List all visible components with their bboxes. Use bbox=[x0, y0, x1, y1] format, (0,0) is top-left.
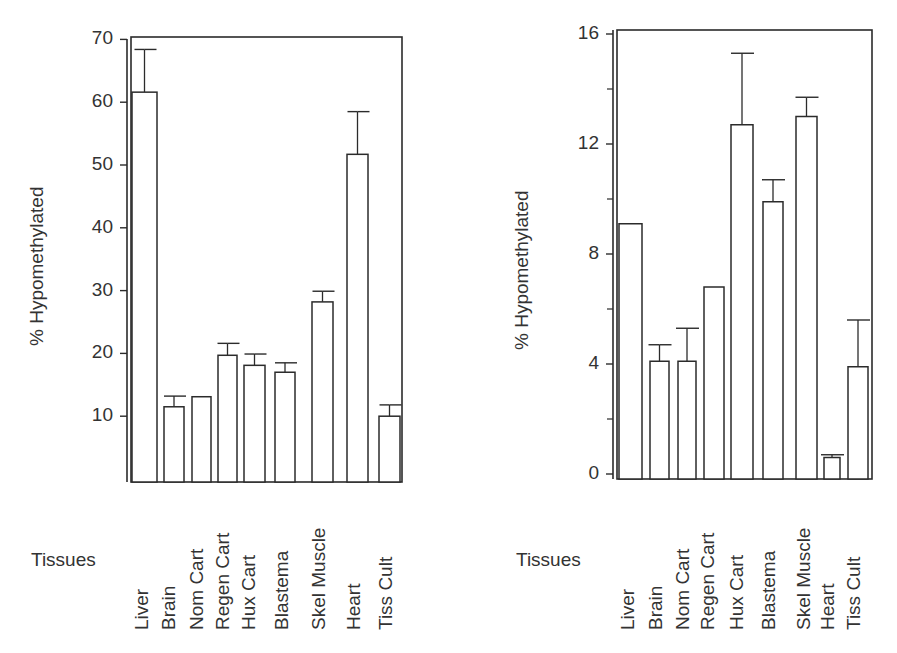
x-category-label: Liver bbox=[618, 589, 637, 630]
bar-tiss-cult bbox=[848, 367, 868, 479]
bar-nom-cart bbox=[678, 361, 696, 479]
bar-blastema bbox=[763, 202, 783, 479]
x-category-label: Heart bbox=[818, 584, 837, 630]
x-category-label: Blastema bbox=[759, 551, 778, 630]
right-x-axis-title: Tissues bbox=[516, 549, 581, 571]
y-tick-label: 12 bbox=[559, 132, 599, 154]
right-y-axis-label: % Hypomethylated bbox=[511, 191, 533, 350]
bar-skel-muscle bbox=[796, 117, 817, 480]
bar-brain bbox=[650, 361, 669, 479]
bar-liver bbox=[619, 224, 642, 479]
bar-hux-cart bbox=[731, 125, 753, 479]
x-category-label: Skel Muscle bbox=[794, 528, 813, 630]
bar-regen-cart bbox=[704, 287, 724, 479]
y-tick-label: 8 bbox=[559, 242, 599, 264]
x-category-label: Brain bbox=[646, 586, 665, 630]
y-tick-label: 0 bbox=[559, 462, 599, 484]
x-category-label: Nom Cart bbox=[673, 549, 692, 630]
x-category-label: Regen Cart bbox=[698, 533, 717, 630]
y-tick-label: 4 bbox=[559, 352, 599, 374]
y-tick-label: 16 bbox=[559, 22, 599, 44]
bar-heart bbox=[824, 458, 840, 480]
x-category-label: Hux Cart bbox=[727, 555, 746, 630]
right-bar-chart: % Hypomethylated 1612840 Tissues LiverBr… bbox=[0, 0, 897, 653]
x-category-label: Tiss Cult bbox=[844, 557, 863, 630]
